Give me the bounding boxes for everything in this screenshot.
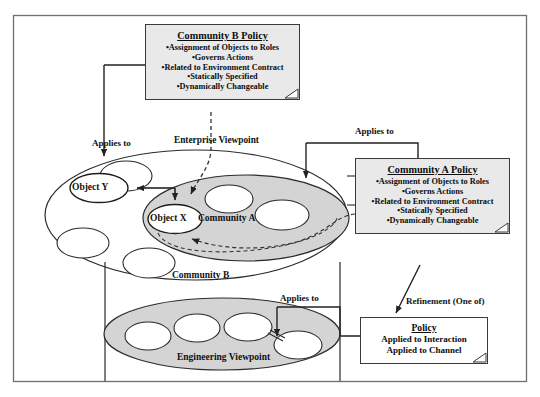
note-title: Community B Policy — [150, 30, 295, 42]
enterprise-object-ellipse — [123, 248, 175, 278]
note-bullet: •Governs Actions — [360, 187, 505, 197]
label-community-a: Community A — [198, 213, 255, 223]
note-bullet: •Dynamically Changeable — [150, 82, 295, 92]
label-applies-to-engineering: Applies to — [280, 293, 319, 303]
diagram-canvas: Community B Policy •Assignment of Object… — [0, 0, 540, 397]
label-applies-to-right: Applies to — [355, 126, 394, 136]
label-refinement: Refinement (One of) — [406, 296, 484, 306]
note-community-a-policy[interactable]: Community A Policy •Assignment of Object… — [355, 158, 510, 234]
label-enterprise-viewpoint: Enterprise Viewpoint — [174, 135, 259, 145]
note-title: Policy — [365, 322, 483, 333]
note-community-b-policy[interactable]: Community B Policy •Assignment of Object… — [145, 24, 300, 100]
community-a-object-ellipse — [255, 200, 309, 230]
note-bullet: •Related to Environment Contract — [150, 63, 295, 73]
note-title: Community A Policy — [360, 164, 505, 176]
note-bullet: •Dynamically Changeable — [360, 216, 505, 226]
note-fold-corner-icon — [472, 352, 487, 363]
note-bullet: •Governs Actions — [150, 53, 295, 63]
label-object-x: Object X — [150, 213, 187, 223]
engineering-object-ellipse — [174, 314, 220, 342]
engineering-object-ellipse — [224, 313, 272, 341]
applies-to-right-elbow — [306, 143, 418, 158]
note-fold-corner-icon — [494, 222, 509, 233]
note-bullet: •Assignment of Objects to Roles — [150, 43, 295, 53]
note-bullet: •Assignment of Objects to Roles — [360, 177, 505, 187]
note-fold-corner-icon — [284, 88, 299, 99]
label-object-y: Object Y — [72, 182, 108, 192]
note-bullet: •Statically Specified — [360, 206, 505, 216]
label-community-b: Community B — [172, 270, 229, 280]
note-bullet: Applied to Channel — [365, 345, 483, 356]
note-bullet: •Statically Specified — [150, 72, 295, 82]
note-bullet: •Related to Environment Contract — [360, 197, 505, 207]
community-a-object-ellipse — [205, 185, 253, 213]
enterprise-object-ellipse — [57, 228, 109, 258]
label-applies-to-left: Applies to — [92, 138, 131, 148]
engineering-object-ellipse — [274, 331, 322, 359]
note-bullet: Applied to Interaction — [365, 334, 483, 345]
label-engineering-viewpoint: Engineering Viewpoint — [177, 352, 270, 362]
note-policy-refinement[interactable]: Policy Applied to Interaction Applied to… — [360, 317, 488, 364]
engineering-object-ellipse — [125, 322, 171, 350]
